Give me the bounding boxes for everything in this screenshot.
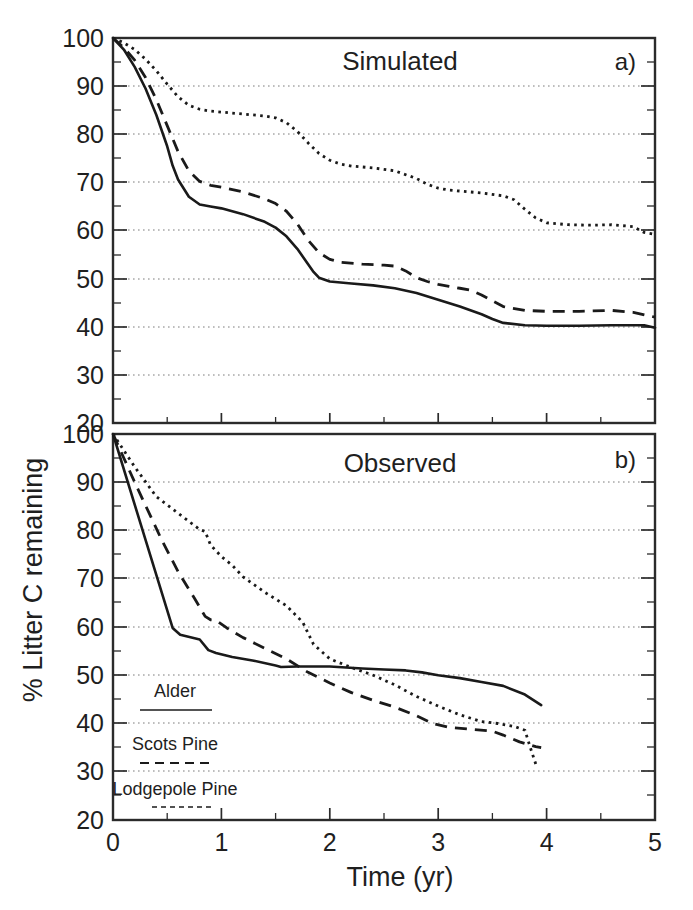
legend-item-lodgepole-pine[interactable]: Lodgepole Pine xyxy=(112,779,237,807)
y-tick-label: 100 xyxy=(62,420,104,448)
series-scots-pine-simulated xyxy=(113,38,655,317)
y-tick-label: 80 xyxy=(76,120,104,148)
y-tick-label: 40 xyxy=(76,313,104,341)
panel-b-y-tick-labels: 100 90 80 70 60 50 40 30 20 xyxy=(62,420,104,834)
series-lodgepole-pine-observed xyxy=(113,434,536,764)
panel-b-gridlines xyxy=(113,434,655,771)
legend-item-scots-pine[interactable]: Scots Pine xyxy=(132,734,218,763)
panel-a-y-tick-labels: 100 90 80 70 60 50 40 30 20 xyxy=(62,24,104,437)
y-tick-label: 50 xyxy=(76,661,104,689)
x-tick-label: 4 xyxy=(540,828,554,856)
x-tick-label: 0 xyxy=(106,828,120,856)
y-tick-label: 70 xyxy=(76,168,104,196)
panel-b-letter: b) xyxy=(615,446,636,473)
panel-a-x-ticks xyxy=(167,413,601,423)
y-axis-title-group: % Litter C remaining xyxy=(18,458,48,703)
figure-container: % Litter C remaining xyxy=(0,0,693,910)
y-tick-label: 20 xyxy=(76,806,104,834)
x-axis-labels: 0 1 2 3 4 5 Time (yr) xyxy=(106,828,662,892)
y-tick-label: 30 xyxy=(76,361,104,389)
two-panel-line-chart: % Litter C remaining xyxy=(0,0,693,910)
y-tick-label: 70 xyxy=(76,564,104,592)
y-tick-label: 80 xyxy=(76,516,104,544)
y-tick-label: 60 xyxy=(76,613,104,641)
y-tick-label: 90 xyxy=(76,468,104,496)
panel-b-x-ticks xyxy=(167,808,601,820)
legend-label-scots-pine: Scots Pine xyxy=(132,734,218,754)
panel-b-series xyxy=(113,434,541,764)
y-tick-label: 30 xyxy=(76,757,104,785)
y-tick-label: 50 xyxy=(76,265,104,293)
x-tick-label: 5 xyxy=(648,828,662,856)
panel-a-simulated: 100 90 80 70 60 50 40 30 20 Simulated a) xyxy=(62,24,655,437)
panel-b-observed: 100 90 80 70 60 50 40 30 20 Observed b) … xyxy=(62,420,655,834)
y-tick-label: 100 xyxy=(62,24,104,52)
y-axis-title: % Litter C remaining xyxy=(18,458,48,703)
legend-label-alder: Alder xyxy=(154,681,196,701)
x-axis-title: Time (yr) xyxy=(347,862,454,892)
y-tick-label: 90 xyxy=(76,72,104,100)
x-tick-label: 3 xyxy=(431,828,445,856)
panel-a-title: Simulated xyxy=(342,46,458,76)
legend: Alder Scots Pine Lodgepole Pine xyxy=(112,681,237,807)
legend-label-lodgepole-pine: Lodgepole Pine xyxy=(112,779,237,799)
panel-a-letter: a) xyxy=(615,48,636,75)
series-alder-simulated xyxy=(113,38,655,328)
y-tick-label: 40 xyxy=(76,709,104,737)
legend-item-alder[interactable]: Alder xyxy=(140,681,212,710)
x-tick-label: 2 xyxy=(323,828,337,856)
panel-b-title: Observed xyxy=(344,448,457,478)
panel-a-series xyxy=(113,38,655,328)
panel-a-gridlines xyxy=(113,38,655,375)
y-tick-label: 60 xyxy=(76,216,104,244)
x-tick-label: 1 xyxy=(214,828,228,856)
